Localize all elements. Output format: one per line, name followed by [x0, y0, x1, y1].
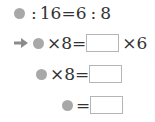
colon: :: [31, 3, 37, 23]
product-equation-row: × 8 = × 6: [13, 33, 147, 53]
unknown-dot-icon: [36, 69, 47, 80]
unknown-dot-icon: [33, 38, 44, 49]
value-6: 6: [137, 33, 148, 53]
equals: =: [72, 33, 86, 53]
result-row: =: [62, 95, 123, 115]
times-sign: ×: [47, 33, 61, 53]
times-sign: ×: [122, 33, 136, 53]
answer-box-3[interactable]: [90, 96, 123, 114]
unknown-dot-icon: [62, 100, 73, 111]
colon: :: [90, 3, 96, 23]
equals: =: [75, 64, 89, 84]
unknown-dot-icon: [14, 8, 25, 19]
value-16: 16: [40, 3, 62, 23]
equals: =: [76, 95, 90, 115]
answer-box-2[interactable]: [89, 65, 122, 83]
value-8: 8: [100, 3, 111, 23]
simplified-equation-row: × 8 =: [36, 64, 122, 84]
arrow-right-icon: [13, 37, 29, 49]
answer-box-1[interactable]: [86, 34, 119, 52]
value-8: 8: [61, 33, 72, 53]
equals: =: [61, 3, 75, 23]
times-sign: ×: [50, 64, 64, 84]
value-6: 6: [76, 3, 87, 23]
proportion-row: : 16 = 6 : 8: [14, 3, 111, 23]
value-8: 8: [64, 64, 75, 84]
